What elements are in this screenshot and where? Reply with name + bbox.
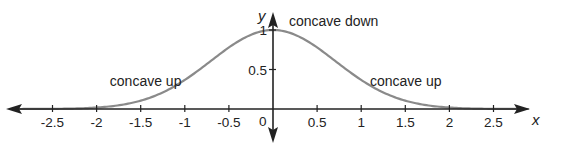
concavity-chart: -2.5-2-1.5-1-0.50.511.522.5 0.51 0 x y c… [0, 0, 563, 146]
annotation-label: concave up [370, 73, 442, 89]
x-tick-label: 1 [357, 115, 365, 130]
x-tick-label: -0.5 [217, 115, 240, 130]
x-tick-label: 0.5 [308, 115, 327, 130]
x-tick-label: -2 [91, 115, 103, 130]
x-tick-label: 1.5 [396, 115, 415, 130]
x-tick-label: 2 [446, 115, 454, 130]
x-tick-label: -1 [179, 115, 191, 130]
x-tick-label: -2.5 [41, 115, 64, 130]
y-tick-label: 1 [259, 23, 267, 38]
origin-label: 0 [259, 114, 267, 129]
annotation-label: concave up [110, 73, 182, 89]
y-ticks: 0.51 [248, 23, 276, 78]
y-tick-label: 0.5 [248, 63, 267, 78]
x-tick-label: -1.5 [129, 115, 152, 130]
annotation-label: concave down [289, 13, 379, 29]
x-axis-label: x [531, 111, 540, 128]
y-axis-label: y [257, 7, 267, 24]
x-tick-label: 2.5 [484, 115, 503, 130]
